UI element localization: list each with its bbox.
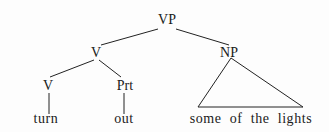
node-v-lower: V: [43, 78, 53, 93]
node-prt: Prt: [117, 78, 133, 93]
node-vp: VP: [158, 12, 176, 27]
edge-vp-np: [176, 29, 229, 45]
leaf-turn: turn: [34, 111, 59, 126]
syntax-tree-diagram: VP V NP V Prt turn out some of the light…: [0, 0, 329, 132]
edge-v-v: [50, 60, 94, 77]
leaf-np-words: some of the lights: [190, 111, 313, 126]
np-triangle: [198, 58, 303, 107]
node-v-upper: V: [91, 45, 101, 60]
edge-vp-v: [101, 29, 158, 45]
node-np: NP: [220, 45, 238, 60]
leaf-out: out: [114, 111, 134, 126]
tree-svg: VP V NP V Prt turn out some of the light…: [0, 0, 329, 132]
edge-v-prt: [99, 60, 121, 77]
